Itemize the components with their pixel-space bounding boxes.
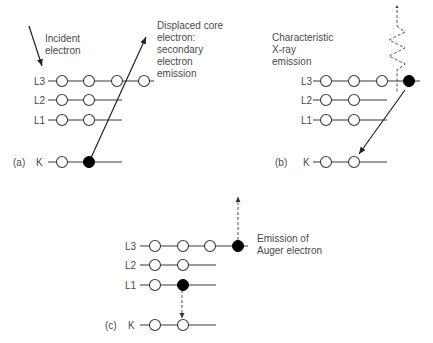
ionized-electron <box>84 157 95 168</box>
annotation-line-1: Displaced core <box>157 20 224 31</box>
annotation-line-2: electron: <box>157 32 195 43</box>
shell-label-k: K <box>128 320 135 331</box>
panel-tag: (a) <box>13 157 25 168</box>
electron <box>205 241 216 252</box>
electron <box>321 95 332 106</box>
electron <box>150 280 161 291</box>
electron <box>321 157 332 168</box>
shell-label-l2: L2 <box>301 95 313 106</box>
electron <box>139 76 150 87</box>
annotation-line-5: emission <box>157 68 196 79</box>
annotation-line-1: Characteristic <box>272 32 333 43</box>
shell-label-l1: L1 <box>301 115 313 126</box>
xray-wave-icon <box>389 26 405 92</box>
electron <box>112 76 123 87</box>
electron <box>321 76 332 87</box>
incident-label-2: electron <box>45 45 81 56</box>
electron <box>57 95 68 106</box>
shell-label-l1: L1 <box>34 115 46 126</box>
electron <box>84 76 95 87</box>
electron <box>178 241 189 252</box>
electron <box>150 260 161 271</box>
panel-tag: (c) <box>105 320 117 331</box>
electron <box>84 95 95 106</box>
electron <box>178 260 189 271</box>
electron <box>349 115 360 126</box>
shell-label-l1: L1 <box>125 280 137 291</box>
shell-label-k: K <box>36 157 43 168</box>
electron-emission-diagram: Incident electron Displaced core electro… <box>0 0 433 343</box>
annotation-line-3: emission <box>272 56 311 67</box>
annotation-line-2: X-ray <box>272 44 296 55</box>
electron <box>349 76 360 87</box>
electron <box>349 95 360 106</box>
panel-tag: (b) <box>275 157 287 168</box>
shell-label-k: K <box>303 157 310 168</box>
electron <box>178 320 189 331</box>
annotation-line-3: secondary <box>157 44 203 55</box>
incident-label-1: Incident <box>45 33 80 44</box>
shell-label-l3: L3 <box>34 76 46 87</box>
shell-label-l3: L3 <box>301 76 313 87</box>
panel-c: Emission of Auger electron L3 L2 L1 K (c… <box>105 197 322 331</box>
shell-label-l2: L2 <box>125 260 137 271</box>
incident-electron-arrow <box>29 26 42 66</box>
electron <box>84 115 95 126</box>
electron <box>57 157 68 168</box>
auger-electron <box>233 241 244 252</box>
electron <box>57 76 68 87</box>
electron <box>349 157 360 168</box>
annotation-line-1: Emission of <box>257 233 309 244</box>
shell-label-l3: L3 <box>125 241 137 252</box>
panel-a: Incident electron Displaced core electro… <box>13 20 224 168</box>
transitioning-electron <box>404 76 415 87</box>
electron <box>150 241 161 252</box>
transitioning-electron <box>178 280 189 291</box>
annotation-line-4: electron <box>157 56 193 67</box>
electron <box>321 115 332 126</box>
ejected-electron-arrow <box>90 37 146 160</box>
panel-b: Characteristic X-ray emission L3 L2 L1 K… <box>272 5 420 168</box>
electron <box>377 76 388 87</box>
xray-arrow-head <box>396 5 399 8</box>
electron <box>57 115 68 126</box>
annotation-line-2: Auger electron <box>257 245 322 256</box>
shell-label-l2: L2 <box>34 95 46 106</box>
electron <box>150 320 161 331</box>
